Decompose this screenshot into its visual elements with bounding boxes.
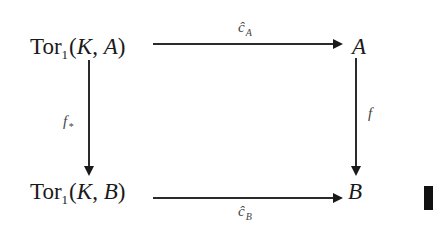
- label-sub: *: [68, 121, 73, 132]
- arrow-left-shaft: [88, 60, 90, 168]
- arrow-right-label: f: [368, 106, 372, 121]
- arrow-bottom-shaft: [153, 197, 335, 199]
- arrow-left-label: f*: [63, 114, 73, 129]
- arrow-top-shaft: [153, 43, 335, 45]
- comma: ,: [92, 34, 104, 59]
- label-c: ĉ: [238, 203, 245, 219]
- arrow-right-head-icon: [351, 166, 361, 176]
- paren-close: ): [118, 179, 126, 204]
- arg-k: K: [77, 34, 92, 59]
- node-a: A: [352, 35, 366, 58]
- arg-k: K: [77, 179, 92, 204]
- node-tor1-k-b: Tor1(K, B): [30, 180, 125, 203]
- label-f: f: [368, 105, 372, 121]
- arg-a: A: [104, 34, 118, 59]
- arrow-bottom-label: ĉB: [238, 204, 252, 219]
- subscript: 1: [62, 47, 69, 62]
- paren-open: (: [69, 179, 77, 204]
- paren-open: (: [69, 34, 77, 59]
- subscript: 1: [62, 192, 69, 207]
- arrow-top-label: ĉA: [238, 20, 252, 35]
- arrow-bottom-head-icon: [333, 193, 343, 203]
- label-sub: A: [246, 27, 252, 38]
- comma: ,: [92, 179, 104, 204]
- tor-text: Tor: [30, 34, 62, 59]
- arrow-left-head-icon: [84, 166, 94, 176]
- node-tor1-k-a: Tor1(K, A): [30, 35, 125, 58]
- node-b: B: [348, 180, 362, 203]
- label-c: ĉ: [238, 19, 245, 35]
- node-b-text: B: [348, 179, 362, 204]
- label-sub: B: [246, 211, 252, 222]
- label-f: f: [63, 113, 67, 129]
- node-a-text: A: [352, 34, 366, 59]
- arrow-top-head-icon: [333, 39, 343, 49]
- tombstone-icon: [424, 186, 433, 210]
- tor-text: Tor: [30, 179, 62, 204]
- arg-b: B: [104, 179, 118, 204]
- arrow-right-shaft: [355, 58, 357, 168]
- paren-close: ): [118, 34, 126, 59]
